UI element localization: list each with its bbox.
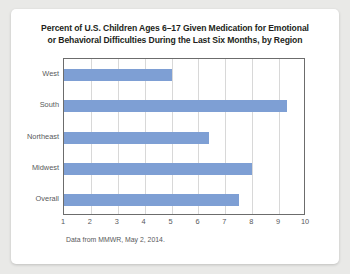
x-axis-tick-label: 5 bbox=[168, 217, 172, 226]
bar bbox=[64, 194, 239, 206]
x-axis-tick-label: 8 bbox=[249, 217, 253, 226]
y-axis-label: Midwest bbox=[11, 162, 59, 174]
x-axis-tick-label: 7 bbox=[222, 217, 226, 226]
y-axis-label: Overall bbox=[11, 193, 59, 205]
y-axis-label: South bbox=[11, 99, 59, 111]
bar bbox=[64, 69, 172, 81]
y-axis-category-labels: WestSouthNortheastMidwestOverall bbox=[11, 58, 59, 215]
x-axis-tick-label: 2 bbox=[88, 217, 92, 226]
source-note: Data from MMWR, May 2, 2014. bbox=[66, 236, 165, 243]
bar bbox=[64, 132, 209, 144]
chart-title-line-2: or Behavioral Difficulties During the La… bbox=[25, 34, 325, 46]
x-axis-tick-label: 9 bbox=[276, 217, 280, 226]
gridline bbox=[279, 59, 280, 214]
y-axis-label: West bbox=[11, 68, 59, 80]
chart-card: Percent of U.S. Children Ages 6–17 Given… bbox=[11, 9, 339, 264]
gridline bbox=[225, 59, 226, 214]
x-axis-tick-labels: 12345678910 bbox=[63, 217, 305, 229]
y-axis-label: Northeast bbox=[11, 131, 59, 143]
x-axis-tick-label: 1 bbox=[61, 217, 65, 226]
bar bbox=[64, 100, 287, 112]
page-background: Percent of U.S. Children Ages 6–17 Given… bbox=[0, 0, 350, 274]
x-axis-tick-label: 4 bbox=[142, 217, 146, 226]
chart-title-line-1: Percent of U.S. Children Ages 6–17 Given… bbox=[25, 22, 325, 34]
gridline bbox=[252, 59, 253, 214]
x-axis-tick-label: 10 bbox=[301, 217, 309, 226]
x-axis-tick-label: 3 bbox=[115, 217, 119, 226]
bar bbox=[64, 163, 252, 175]
x-axis-tick-label: 6 bbox=[195, 217, 199, 226]
chart-title: Percent of U.S. Children Ages 6–17 Given… bbox=[25, 22, 325, 47]
plot-area bbox=[63, 58, 305, 215]
